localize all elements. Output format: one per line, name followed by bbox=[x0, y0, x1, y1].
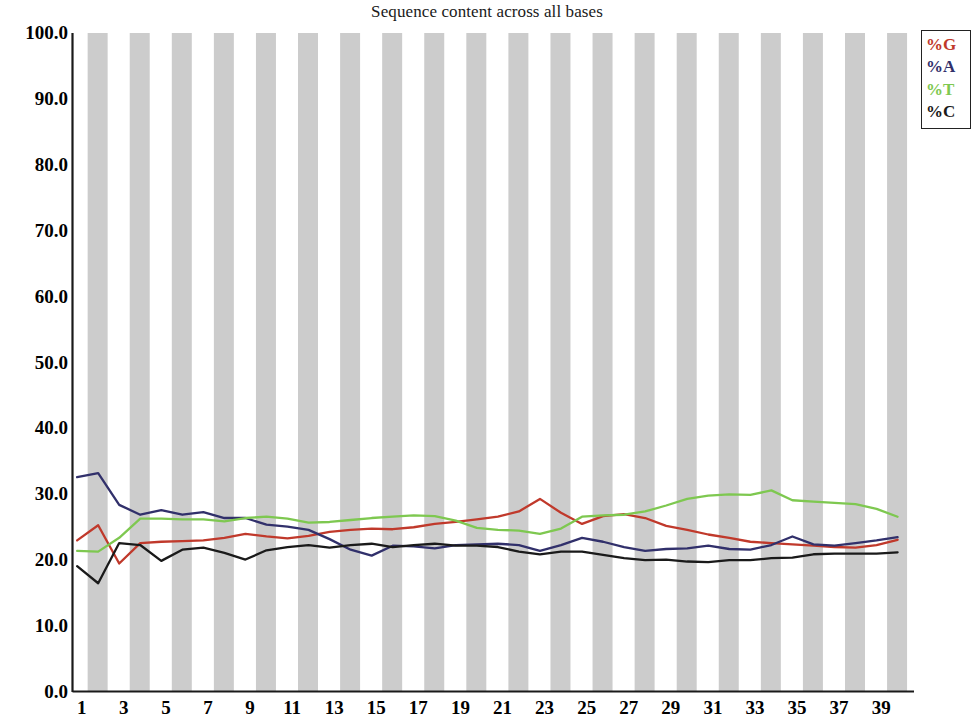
x-tick-label: 19 bbox=[440, 698, 480, 717]
x-tick-label: 21 bbox=[483, 698, 523, 717]
x-tick-label: 13 bbox=[314, 698, 354, 717]
legend-entry-pct-T: %T bbox=[926, 79, 967, 101]
x-tick-label: 39 bbox=[861, 698, 901, 717]
x-tick-label: 17 bbox=[398, 698, 438, 717]
sequence-content-chart: Sequence content across all bases 100.09… bbox=[0, 0, 974, 724]
x-tick-label: 33 bbox=[735, 698, 775, 717]
x-tick-label: 7 bbox=[188, 698, 228, 717]
legend-entry-pct-G: %G bbox=[926, 34, 967, 56]
legend: %G%A%T%C bbox=[921, 30, 971, 129]
x-tick-label: 3 bbox=[104, 698, 144, 717]
x-tick-label: 35 bbox=[777, 698, 817, 717]
x-tick-label: 25 bbox=[567, 698, 607, 717]
x-tick-label: 31 bbox=[693, 698, 733, 717]
x-axis-tick-labels: 13579111315171921232527293133353739 bbox=[0, 0, 974, 724]
x-tick-label: 1 bbox=[62, 698, 102, 717]
legend-entry-pct-C: %C bbox=[926, 101, 967, 123]
x-tick-label: 23 bbox=[525, 698, 565, 717]
x-tick-label: 29 bbox=[651, 698, 691, 717]
x-tick-label: 11 bbox=[272, 698, 312, 717]
x-tick-label: 27 bbox=[609, 698, 649, 717]
x-tick-label: 5 bbox=[146, 698, 186, 717]
legend-entry-pct-A: %A bbox=[926, 56, 967, 78]
x-tick-label: 37 bbox=[819, 698, 859, 717]
x-tick-label: 15 bbox=[356, 698, 396, 717]
x-tick-label: 9 bbox=[230, 698, 270, 717]
